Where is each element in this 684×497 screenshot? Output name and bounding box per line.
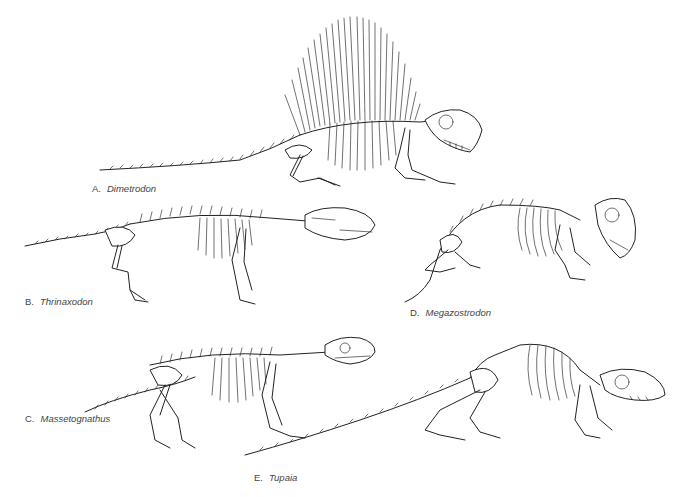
label-c-name: Massetognathus bbox=[41, 413, 111, 424]
dimetrodon-skeleton bbox=[100, 17, 482, 186]
label-d-name: Megazostrodon bbox=[426, 307, 491, 318]
skeleton-comparison-figure: A.Dimetrodon B.Thrinaxodon C.Massetognat… bbox=[0, 0, 684, 497]
label-e-name: Tupaia bbox=[269, 472, 297, 483]
megazostrodon-skeleton bbox=[405, 198, 636, 302]
label-b-name: Thrinaxodon bbox=[40, 296, 93, 307]
massetognathus-skeleton bbox=[85, 337, 375, 448]
label-d-letter: D. bbox=[410, 307, 420, 318]
label-a: A.Dimetrodon bbox=[92, 183, 156, 194]
label-b: B.Thrinaxodon bbox=[25, 296, 93, 307]
label-b-letter: B. bbox=[25, 296, 34, 307]
tupaia-skeleton bbox=[245, 344, 665, 455]
label-e-letter: E. bbox=[254, 472, 263, 483]
label-e: E.Tupaia bbox=[254, 472, 297, 483]
thrinaxodon-skeleton bbox=[25, 206, 375, 304]
label-a-letter: A. bbox=[92, 183, 101, 194]
label-d: D.Megazostrodon bbox=[410, 307, 491, 318]
label-a-name: Dimetrodon bbox=[107, 183, 156, 194]
label-c-letter: C. bbox=[25, 413, 35, 424]
label-c: C.Massetognathus bbox=[25, 413, 110, 424]
